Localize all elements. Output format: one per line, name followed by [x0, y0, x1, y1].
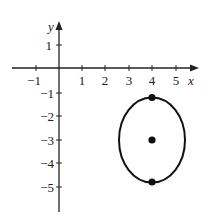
x-tick-label: 4 [149, 73, 156, 88]
x-axis-label: x [187, 73, 194, 88]
y-tick-label: −3 [40, 133, 54, 148]
vertex-bottom-point [148, 178, 155, 185]
y-axis-label: y [46, 19, 54, 34]
y-tick-label: −5 [40, 180, 54, 195]
x-tick-label: −1 [27, 73, 41, 88]
x-axis-arrow-icon [190, 65, 199, 72]
x-tick-label: 2 [102, 73, 109, 88]
vertex-top-point [148, 94, 155, 101]
x-tick-label: 1 [79, 73, 86, 88]
y-tick-label: 1 [46, 38, 53, 53]
center-point [148, 136, 155, 143]
y-tick-label: −2 [40, 109, 54, 124]
x-tick-label: 3 [126, 73, 133, 88]
y-tick-label: −1 [40, 86, 54, 101]
y-tick-label: −4 [40, 156, 54, 171]
ellipse-graph: −1 1 2 3 4 5 x 1 −1 −2 −3 −4 −5 y [0, 0, 210, 219]
y-axis-arrow-icon [56, 21, 63, 30]
x-tick-label: 5 [173, 73, 180, 88]
